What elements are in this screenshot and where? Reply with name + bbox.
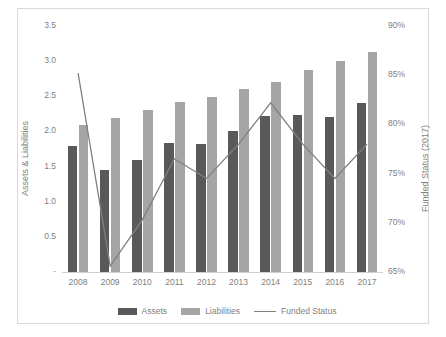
funded-status-line-swatch — [254, 311, 276, 312]
x-tick-2010: 2010 — [126, 277, 158, 287]
x-tick-2009: 2009 — [94, 277, 126, 287]
right-tick-85%: 85% — [388, 70, 428, 79]
chart-legend: AssetsLiabilitiesFunded Status — [108, 303, 346, 319]
legend-label: Assets — [142, 306, 168, 316]
right-axis-title: Funded Status (2017) — [420, 125, 430, 212]
x-tick-2014: 2014 — [255, 277, 287, 287]
left-tick-1.0: 1.0 — [22, 197, 56, 206]
liabilities-swatch — [181, 308, 200, 315]
left-tick-0.5: 0.5 — [22, 232, 56, 241]
x-tick-2013: 2013 — [223, 277, 255, 287]
right-tick-65%: 65% — [388, 267, 428, 276]
legend-item-funded-status[interactable]: Funded Status — [254, 306, 336, 316]
left-tick--: - — [22, 267, 56, 276]
assets-swatch — [118, 308, 137, 315]
legend-item-assets[interactable]: Assets — [118, 306, 168, 316]
left-tick-3.5: 3.5 — [22, 21, 56, 30]
right-tick-90%: 90% — [388, 21, 428, 30]
legend-label: Liabilities — [205, 306, 240, 316]
left-tick-2.5: 2.5 — [22, 91, 56, 100]
x-tick-2017: 2017 — [351, 277, 383, 287]
x-tick-2016: 2016 — [319, 277, 351, 287]
right-tick-70%: 70% — [388, 218, 428, 227]
left-axis-title: Assets & Liabilities — [20, 121, 30, 196]
chart-figure: -0.51.01.52.02.53.03.5 65%70%75%80%85%90… — [0, 0, 446, 337]
x-tick-2015: 2015 — [287, 277, 319, 287]
legend-label: Funded Status — [281, 306, 336, 316]
x-tick-2012: 2012 — [190, 277, 222, 287]
left-tick-3.0: 3.0 — [22, 56, 56, 65]
x-tick-2008: 2008 — [62, 277, 94, 287]
funded-status-line-layer — [62, 26, 383, 272]
x-axis-line — [62, 272, 383, 273]
funded-status-line — [62, 26, 383, 272]
x-tick-2011: 2011 — [158, 277, 190, 287]
legend-item-liabilities[interactable]: Liabilities — [181, 306, 240, 316]
